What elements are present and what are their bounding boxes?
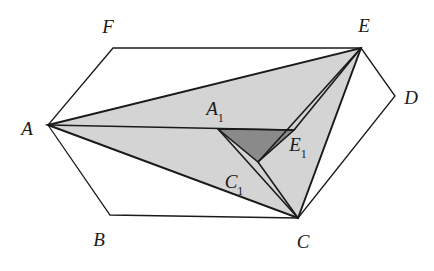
vertex-label-B: B [93, 230, 105, 249]
vertex-label-E: E [358, 16, 370, 35]
vertex-label-F: F [102, 17, 114, 36]
vertex-label-E1: E1 [289, 135, 307, 158]
vertex-label-D: D [404, 88, 418, 107]
subscript-1: 1 [301, 146, 307, 160]
vertex-label-C: C [297, 232, 310, 251]
geometry-figure: A B C D E F A1 C1 E1 [0, 0, 434, 271]
vertex-label-A1: A1 [206, 99, 224, 122]
geometry-canvas [0, 0, 434, 271]
subscript-1: 1 [237, 183, 243, 197]
subscript-1: 1 [218, 110, 224, 124]
vertex-label-C1: C1 [225, 172, 244, 195]
vertex-label-A: A [21, 119, 33, 138]
